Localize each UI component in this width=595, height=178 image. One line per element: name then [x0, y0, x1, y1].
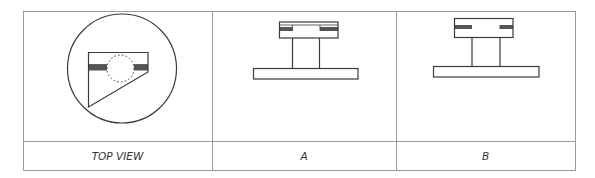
a-left-bar: [280, 27, 293, 31]
label-a: A: [212, 141, 396, 170]
a-right-bar: [320, 27, 338, 31]
view-a-drawing: [254, 22, 359, 79]
top-view-drawing: [68, 14, 177, 123]
left-bar: [89, 65, 108, 71]
label-top-view: TOP VIEW: [23, 141, 212, 170]
b-left-bar: [455, 25, 473, 29]
dashed-hole-circle: [107, 55, 134, 82]
view-b-drawing: [434, 19, 540, 78]
a-base: [254, 69, 359, 80]
right-bar: [134, 65, 148, 71]
b-base: [434, 67, 540, 78]
wedge-shape: [89, 53, 149, 108]
b-right-bar: [500, 25, 514, 29]
label-b: B: [396, 141, 575, 170]
outer-circle: [68, 14, 177, 123]
